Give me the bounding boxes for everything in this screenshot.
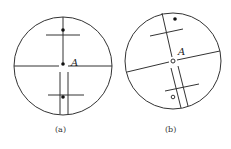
hollow-center-b	[171, 59, 175, 63]
caption-a: (a)	[55, 125, 66, 134]
hollow-dot-bottom-b	[171, 95, 175, 99]
dot-bottom-a	[61, 95, 65, 99]
bottom-tick-b	[165, 84, 199, 91]
dot-top-b	[173, 17, 177, 21]
diagram-canvas: A (a) A (b)	[0, 0, 231, 149]
reticle-circle-b	[125, 13, 221, 109]
dot-top-a	[61, 28, 65, 32]
point-label-a: A	[70, 57, 78, 68]
point-label-b: A	[177, 46, 185, 57]
tilted-vertical-top-b	[162, 13, 172, 57]
caption-b: (b)	[165, 125, 176, 134]
tilted-horizontal-left-b	[127, 62, 169, 72]
figure-b	[125, 13, 221, 109]
dot-center-a	[61, 62, 65, 66]
